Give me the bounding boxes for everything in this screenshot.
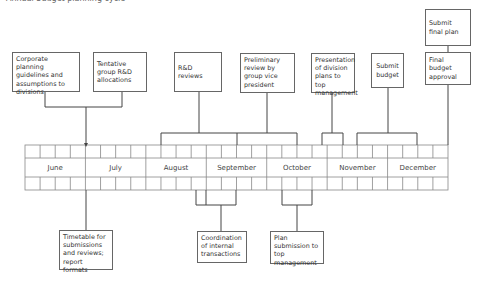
month-label: October bbox=[267, 158, 327, 177]
event-label: R&D reviews bbox=[178, 64, 218, 80]
event-label: Tentative group R&D allocations bbox=[97, 60, 143, 85]
event-submit-budget: Submit budget bbox=[371, 53, 404, 88]
month-label: September bbox=[206, 158, 266, 177]
event-corporate-planning: Corporate planning guidelines and assump… bbox=[12, 52, 80, 92]
event-label: Corporate planning guidelines and assump… bbox=[16, 55, 65, 96]
event-label: Final budget approval bbox=[429, 56, 467, 81]
event-label: Timetable for submissions and reviews; r… bbox=[63, 233, 106, 274]
event-label: Preliminary review by group vice preside… bbox=[244, 56, 280, 89]
event-tentative-rd: Tentative group R&D allocations bbox=[93, 52, 147, 92]
month-label: November bbox=[327, 158, 387, 177]
event-label: Plan submission to top management bbox=[274, 234, 318, 267]
event-presentation: Presentation of division plans to top ma… bbox=[311, 53, 355, 93]
event-label: Submit budget bbox=[375, 62, 400, 78]
event-timetable: Timetable for submissions and reviews; r… bbox=[59, 230, 113, 270]
month-label: July bbox=[85, 158, 145, 177]
event-plan-submission: Plan submission to top management bbox=[270, 231, 324, 264]
event-label: Presentation of division plans to top ma… bbox=[315, 56, 358, 97]
event-rd-reviews: R&D reviews bbox=[174, 52, 222, 92]
event-label: Submit final plan bbox=[429, 19, 467, 35]
event-label: Coordination of internal transactions bbox=[201, 234, 242, 258]
month-label: June bbox=[25, 158, 85, 177]
month-label: December bbox=[388, 158, 448, 177]
event-submit-final-plan: Submit final plan bbox=[425, 9, 471, 46]
event-coordination: Coordination of internal transactions bbox=[197, 231, 247, 263]
month-label: August bbox=[146, 158, 206, 177]
event-preliminary-review: Preliminary review by group vice preside… bbox=[240, 53, 295, 93]
event-final-approval: Final budget approval bbox=[425, 52, 471, 85]
